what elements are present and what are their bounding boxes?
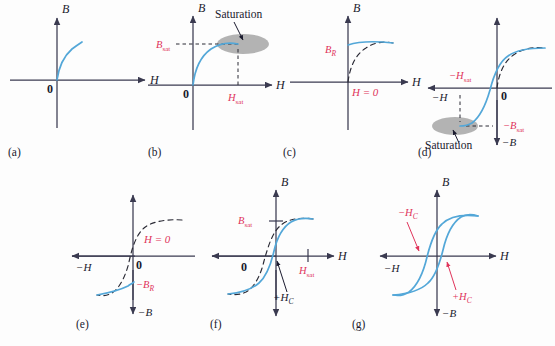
panel-c-h-label: H — [411, 75, 422, 89]
panel-g-lower-branch — [393, 215, 478, 295]
panel-f-caption: (f) — [210, 318, 222, 331]
panel-c-residual-curve — [348, 42, 393, 45]
panel-e-negb-label: −B — [138, 306, 152, 318]
panel-d-prior-curve — [497, 48, 545, 88]
panel-a-magnetization-curve — [57, 42, 82, 80]
panel-d-origin-label: 0 — [501, 89, 507, 103]
panel-a-origin-label: 0 — [47, 82, 53, 96]
panel-e-caption: (e) — [76, 318, 89, 331]
panel-g-negb-label: −B — [442, 307, 456, 319]
panel-b: B H 0 Bsat Hsat Saturation (b) — [148, 1, 286, 159]
hysteresis-figure: B H 0 (a) B H 0 Bsat Hsat Saturation (b)… — [0, 0, 555, 346]
panel-g-plus-hc-leader — [447, 262, 456, 290]
panel-c-hzero-label: H = 0 — [351, 86, 379, 98]
panel-c: B H BR H = 0 (c) — [283, 1, 422, 159]
panel-g-caption: (g) — [352, 318, 366, 331]
panel-d-negb-label: −B — [502, 136, 516, 148]
panel-g-h-label: H — [499, 249, 510, 263]
panel-g-neg-hc-label: −HC — [398, 207, 419, 221]
panel-f-hsat-label: Hsat — [298, 265, 314, 279]
panel-g-b-label: B — [442, 175, 450, 189]
panel-g-neg-hc-leader — [407, 222, 419, 251]
panel-c-br-label: BR — [325, 44, 336, 58]
panel-f-origin-label: 0 — [241, 260, 247, 274]
panel-a-caption: (a) — [8, 146, 21, 159]
panel-b-saturation-label: Saturation — [215, 8, 263, 20]
panel-e: −H −B 0 H = 0 −BR (e) — [72, 195, 195, 331]
panel-b-hsat-label: Hsat — [227, 92, 243, 106]
panel-f-bsat-label: Bsat — [238, 215, 252, 229]
panel-d-saturation-label: Saturation — [425, 139, 473, 151]
panel-b-origin-label: 0 — [183, 87, 189, 101]
panel-f-h-label: H — [337, 249, 348, 263]
panel-g-plus-hc-label: +HC — [452, 291, 473, 305]
panel-f-b-label: B — [281, 175, 289, 189]
panel-d-reverse-curve — [460, 48, 545, 126]
panel-e-residual-curve — [97, 282, 134, 295]
panel-c-prior-curve — [348, 42, 393, 82]
panel-a: B H 0 (a) — [8, 2, 160, 159]
panel-e-negbr-label: −BR — [136, 279, 155, 293]
panel-a-b-label: B — [62, 2, 70, 16]
panel-g-negh-label: −H — [384, 262, 400, 274]
panel-d-negbsat-label: −Bsat — [503, 120, 524, 134]
panel-b-caption: (b) — [148, 146, 162, 159]
panel-d-saturation-ellipse — [432, 117, 478, 135]
panel-d-neghsat-label: −Hsat — [449, 70, 472, 84]
panel-b-b-label: B — [198, 1, 206, 15]
panel-e-negh-label: −H — [76, 261, 92, 273]
panel-g: B H −H −B −HC +HC (g) — [352, 175, 510, 331]
panel-f: B H 0 Bsat Hsat +HC (f) — [210, 175, 348, 331]
panel-e-origin-label: 0 — [136, 258, 142, 272]
panel-b-h-label: H — [275, 78, 286, 92]
panel-c-caption: (c) — [283, 146, 296, 159]
panel-e-hzero-label: H = 0 — [143, 233, 171, 245]
panel-d-caption: (d) — [418, 146, 432, 159]
panel-b-bsat-label: Bsat — [156, 39, 170, 53]
panel-d-negh-label: −H — [432, 91, 448, 103]
panel-f-plus-hc-leader — [277, 261, 287, 292]
panel-c-b-label: B — [353, 1, 361, 15]
panel-d: −H −B 0 −Hsat −Bsat Saturation (d) — [418, 18, 552, 159]
figure-canvas: B H 0 (a) B H 0 Bsat Hsat Saturation (b)… — [0, 0, 555, 346]
